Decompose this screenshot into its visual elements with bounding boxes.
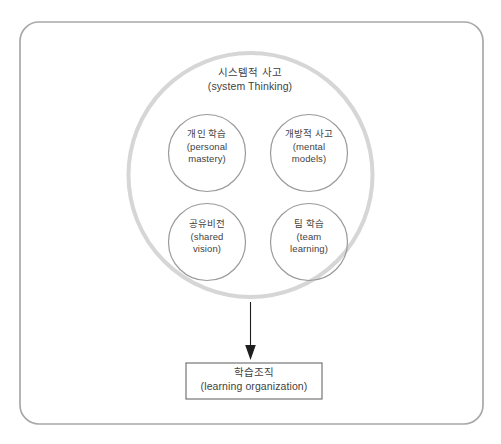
mental-models-label-en-2: models): [264, 153, 354, 166]
down-arrow-shape: [245, 302, 256, 360]
shared-vision-label-en-2: vision): [162, 243, 252, 256]
personal-mastery-label: 개인 학습 (personal mastery): [162, 128, 252, 166]
system-thinking-label: 시스템적 사고 (system Thinking): [150, 66, 350, 94]
shared-vision-label: 공유비전 (shared vision): [162, 218, 252, 256]
shared-vision-label-en-1: (shared: [162, 231, 252, 244]
personal-mastery-label-en-2: mastery): [162, 153, 252, 166]
team-learning-label: 팀 학습 (team learning): [264, 218, 354, 256]
team-learning-label-ko: 팀 학습: [264, 218, 354, 231]
personal-mastery-label-ko: 개인 학습: [162, 128, 252, 141]
team-learning-label-en-2: learning): [264, 243, 354, 256]
team-learning-label-en-1: (team: [264, 231, 354, 244]
system-thinking-label-ko: 시스템적 사고: [150, 66, 350, 80]
learning-organization-label-ko: 학습조직: [186, 366, 322, 380]
mental-models-label-en-1: (mental: [264, 141, 354, 154]
learning-organization-label-en: (learning organization): [186, 380, 322, 394]
shared-vision-label-ko: 공유비전: [162, 218, 252, 231]
mental-models-label-ko: 개방적 사고: [264, 128, 354, 141]
mental-models-label: 개방적 사고 (mental models): [264, 128, 354, 166]
system-thinking-label-en: (system Thinking): [150, 80, 350, 94]
personal-mastery-label-en-1: (personal: [162, 141, 252, 154]
learning-organization-label: 학습조직 (learning organization): [186, 366, 322, 394]
diagram-canvas: 시스템적 사고 (system Thinking) 개인 학습 (persona…: [0, 0, 501, 444]
